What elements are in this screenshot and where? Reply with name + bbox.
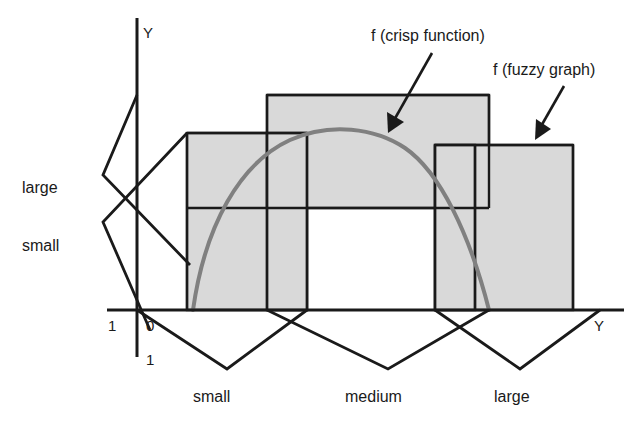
y-axis-label: Y (143, 25, 153, 40)
horizontal-set-label-medium: medium (345, 389, 402, 405)
vertical-set-label-large: large (22, 180, 58, 196)
horizontal-membership-sets (137, 310, 600, 369)
tick-one-down: 1 (146, 352, 154, 367)
horizontal-set-large (435, 310, 600, 369)
tick-one-left: 1 (108, 318, 116, 333)
horizontal-set-label-small: small (193, 389, 230, 405)
annotation-label-fuzzy-graph: f (fuzzy graph) (493, 62, 595, 78)
rect-large-column (435, 145, 475, 310)
vertical-set-small (103, 133, 187, 330)
vertical-membership-sets (103, 95, 190, 330)
tick-zero-origin: 0 (146, 318, 154, 333)
vertical-set-label-small: small (22, 238, 59, 254)
rect-small-column (267, 133, 307, 310)
fuzzy-graph-arrow-shaft (540, 86, 564, 128)
annotation-label-crisp-function: f (crisp function) (371, 28, 485, 44)
horizontal-set-label-large: large (494, 389, 530, 405)
fuzzy-graph-rectangles (187, 95, 573, 310)
vertical-set-large (103, 95, 190, 265)
x-axis-label: Y (594, 318, 604, 333)
horizontal-set-small (137, 310, 307, 369)
horizontal-set-medium (267, 310, 489, 369)
figure-canvas: Y Y 1 0 1 large small small medium large… (0, 0, 641, 432)
